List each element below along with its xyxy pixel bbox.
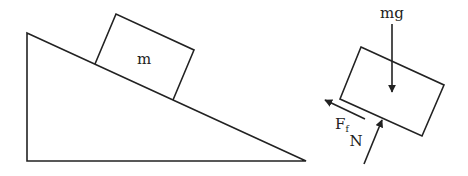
free-body-diagram: mg Ff N [325,4,444,164]
inclined-plane [27,33,306,161]
normal-label: N [349,132,362,150]
mass-label: m [137,50,151,68]
physics-diagram: m mg Ff N [0,0,468,176]
weight-label: mg [380,4,404,22]
friction-label-main: F [335,115,345,133]
normal-arrow-icon [364,120,382,164]
friction-label: Ff [335,115,349,134]
